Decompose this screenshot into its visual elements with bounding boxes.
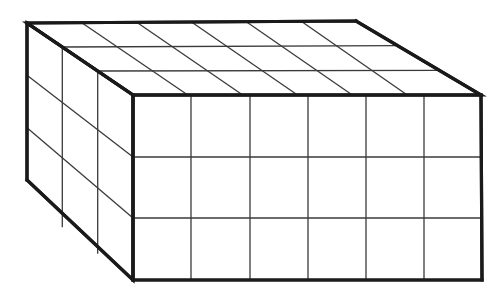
face-fills xyxy=(27,21,482,280)
edge-top-back xyxy=(27,21,356,23)
top-depth-line-2 xyxy=(98,70,440,71)
figure-container: Line drawing of a rectangular prism (box… xyxy=(0,0,503,296)
edge-front-right-vertical xyxy=(481,95,482,280)
rectangular-prism-diagram xyxy=(0,0,503,296)
